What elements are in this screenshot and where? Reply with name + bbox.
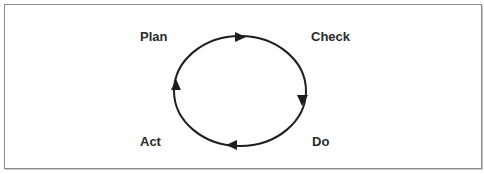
arrow-right-icon xyxy=(235,32,246,42)
arrow-up-icon xyxy=(171,79,181,90)
cycle-diagram xyxy=(0,0,484,174)
node-label-act: Act xyxy=(140,135,161,149)
node-label-check: Check xyxy=(311,30,350,44)
cycle-ellipse xyxy=(174,36,306,146)
node-label-plan: Plan xyxy=(140,30,167,44)
node-label-do: Do xyxy=(312,135,329,149)
arrow-left-icon xyxy=(226,140,237,150)
arrow-down-icon xyxy=(297,95,308,106)
